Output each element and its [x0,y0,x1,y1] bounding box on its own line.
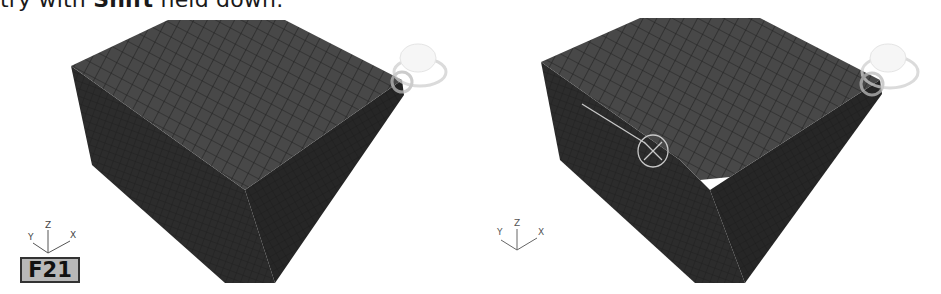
right-axis-z-label: Z [514,218,520,228]
left-axis-x-label: X [70,230,76,240]
right-axis-y-label: Y [496,227,503,237]
right-axis-tripod-icon [501,229,537,250]
right-axis-x-label: X [538,227,544,237]
right-box-mesh[interactable] [541,18,882,283]
viewport-scene: Z Y X Z Y X [0,0,941,294]
left-axis-tripod-icon [33,230,70,253]
figure-badge: F21 [20,257,80,283]
left-axis-z-label: Z [45,220,51,230]
left-axis-y-label: Y [27,232,34,242]
left-box-mesh[interactable] [71,20,404,283]
